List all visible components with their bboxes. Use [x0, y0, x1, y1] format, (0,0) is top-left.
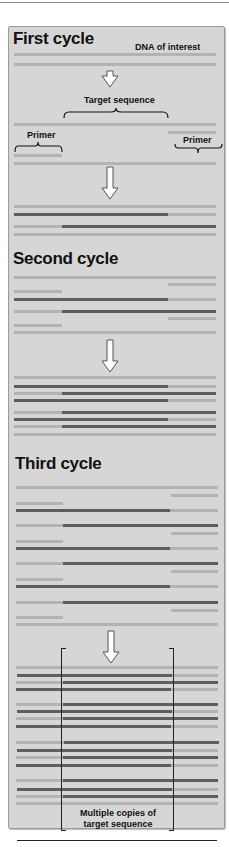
- label-target-sequence: Target sequence: [84, 95, 155, 105]
- section-title-second-cycle: Second cycle: [13, 249, 118, 269]
- primer-right-brace-icon: [174, 143, 224, 155]
- result-bracket-left-bottom-tick: [61, 830, 66, 831]
- result-caption-line-1: Multiple copies of: [70, 808, 166, 819]
- label-dna-of-interest: DNA of interest: [135, 42, 200, 52]
- down-arrow-icon: [101, 339, 119, 374]
- down-arrow-icon: [101, 70, 119, 89]
- down-arrow-icon: [102, 630, 120, 665]
- section-title-third-cycle: Third cycle: [15, 454, 101, 474]
- bottom-rule: [17, 840, 217, 841]
- result-bracket-right-top-tick: [169, 648, 174, 649]
- result-caption-line-2: target sequence: [70, 819, 166, 830]
- label-primer-left: Primer: [27, 130, 56, 140]
- process-arrows: [0, 0, 229, 847]
- section-title-first-cycle: First cycle: [13, 29, 94, 49]
- result-bracket-right-bottom-tick: [169, 830, 174, 831]
- result-caption: Multiple copies of target sequence: [70, 808, 166, 830]
- down-arrow-icon: [101, 166, 119, 201]
- result-bracket-left: [61, 648, 62, 831]
- primer-left-brace-icon: [14, 141, 64, 153]
- result-bracket-left-top-tick: [61, 648, 66, 649]
- result-bracket-right: [173, 648, 174, 831]
- target-sequence-brace-icon: [63, 107, 169, 119]
